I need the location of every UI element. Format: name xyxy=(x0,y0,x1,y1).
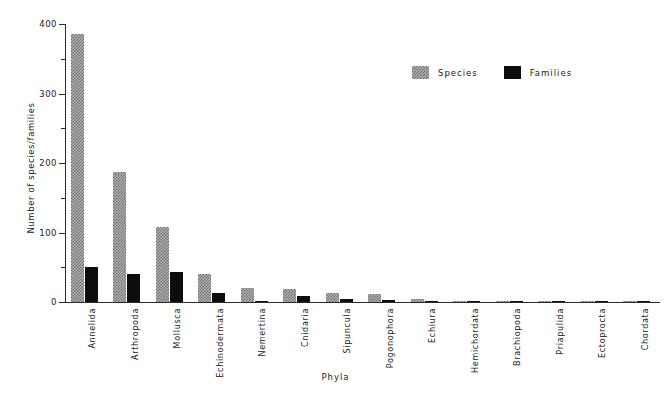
bar-species xyxy=(368,294,381,302)
bar-species xyxy=(453,301,466,302)
bar-species xyxy=(71,34,84,302)
bar-group xyxy=(581,24,608,302)
bar-group xyxy=(368,24,395,302)
x-tick-label: Nemertina xyxy=(258,308,267,357)
bar-species xyxy=(198,274,211,302)
x-tick-label: Priapulida xyxy=(556,308,565,355)
bar-group xyxy=(283,24,310,302)
bar-families xyxy=(255,301,268,302)
bar-families xyxy=(297,296,310,302)
x-axis-title: Phyla xyxy=(0,372,671,382)
bar-families xyxy=(340,299,353,302)
bar-families xyxy=(510,301,523,302)
bar-species xyxy=(113,172,126,302)
bar-group xyxy=(198,24,225,302)
legend-swatch-families-icon xyxy=(504,66,521,79)
y-tick-label: 400 xyxy=(39,19,57,29)
bar-species xyxy=(283,289,296,302)
bar-group xyxy=(71,24,98,302)
bar-families xyxy=(595,301,608,302)
bar-species xyxy=(538,301,551,302)
bar-species xyxy=(411,299,424,302)
chart-canvas: 0100200300400 Number of species/families… xyxy=(0,0,671,401)
x-tick-label: Ectoprocta xyxy=(598,308,607,358)
bar-species xyxy=(241,288,254,302)
x-tick-label: Hemichordata xyxy=(471,308,480,373)
x-tick-label: Cnidaria xyxy=(301,308,310,347)
legend-item-species: Species xyxy=(412,66,478,79)
legend-label-families: Families xyxy=(530,68,572,78)
bar-families xyxy=(170,272,183,302)
bar-group xyxy=(156,24,183,302)
x-tick-label: Echinodermata xyxy=(216,308,225,378)
bar-species xyxy=(326,293,339,302)
y-tick-label: 0 xyxy=(51,297,57,307)
x-tick-label: Chordata xyxy=(641,308,650,350)
bar-group xyxy=(113,24,140,302)
x-tick-label: Mollusca xyxy=(173,308,182,348)
bar-group xyxy=(326,24,353,302)
y-tick-label: 100 xyxy=(39,228,57,238)
x-tick-label: Pogonophora xyxy=(386,308,395,368)
chart-legend: Species Families xyxy=(412,66,572,79)
bar-group xyxy=(623,24,650,302)
bar-species xyxy=(156,227,169,302)
bar-species xyxy=(496,301,509,302)
x-tick-label: Echiura xyxy=(428,308,437,343)
bar-families xyxy=(637,301,650,302)
bar-families xyxy=(552,301,565,302)
x-tick-label: Arthropoda xyxy=(131,308,140,360)
x-tick-label: Brachiopoda xyxy=(513,308,522,366)
legend-item-families: Families xyxy=(504,66,572,79)
bar-group xyxy=(241,24,268,302)
bar-families xyxy=(425,301,438,302)
bar-families xyxy=(382,300,395,302)
legend-label-species: Species xyxy=(438,68,478,78)
bar-families xyxy=(85,267,98,302)
bar-families xyxy=(127,274,140,302)
bar-species xyxy=(623,301,636,302)
bar-families xyxy=(212,293,225,302)
bar-species xyxy=(581,301,594,302)
x-tick-label: Annelida xyxy=(88,308,97,349)
bar-families xyxy=(467,301,480,302)
x-tick-label: Sipuncula xyxy=(343,308,352,353)
y-tick-label: 300 xyxy=(39,89,57,99)
legend-swatch-species-icon xyxy=(412,66,429,79)
y-axis-title: Number of species/families xyxy=(26,68,36,268)
y-tick-label: 200 xyxy=(39,158,57,168)
